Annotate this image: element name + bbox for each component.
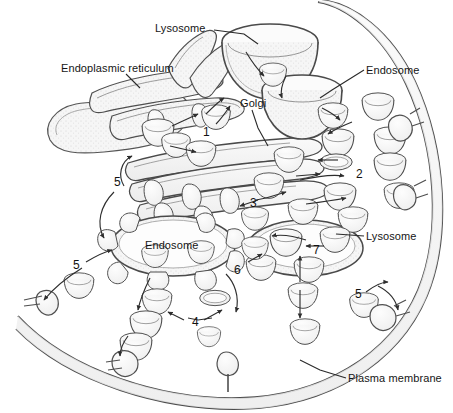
- step-number-5b: 5: [73, 259, 80, 271]
- label-endosome-right: Endosome: [366, 64, 419, 76]
- label-golgi: Golgi: [240, 97, 266, 109]
- label-lysosome-right: Lysosome: [366, 230, 417, 242]
- step-number-5c: 5: [355, 288, 362, 300]
- label-lysosome-top: Lysosome: [155, 22, 206, 34]
- step-number-1: 1: [203, 126, 210, 138]
- step-number-6: 6: [234, 264, 241, 276]
- label-plasma-membrane: Plasma membrane: [348, 372, 442, 384]
- label-endoplasmic-reticulum: Endoplasmic reticulum: [61, 62, 174, 74]
- label-endosome-center: Endosome: [145, 239, 198, 251]
- cell-diagram-figure: Lysosome Endoplasmic reticulum Endosome …: [0, 0, 453, 413]
- step-number-7: 7: [313, 244, 320, 256]
- step-number-3: 3: [250, 197, 257, 209]
- step-number-4: 4: [192, 316, 199, 328]
- step-number-5a: 5: [114, 176, 121, 188]
- step-number-2: 2: [356, 168, 363, 180]
